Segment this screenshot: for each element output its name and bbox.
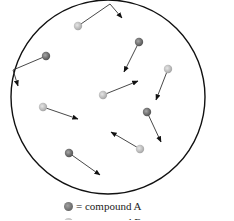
- trajectory-arrow-icon: [156, 69, 168, 100]
- compound-b-symbol-icon: [64, 218, 73, 221]
- compound-b-particle: [99, 91, 107, 99]
- compound-a-particle: [42, 52, 50, 60]
- compound-b-particle: [74, 22, 82, 30]
- legend-item-compound-a: = compound A: [64, 200, 141, 212]
- trajectory-arrow-icon: [103, 81, 138, 95]
- compound-a-particle: [65, 149, 73, 157]
- trajectory-arrow-icon: [43, 107, 78, 119]
- compound-a-particle: [143, 108, 151, 116]
- trajectory-arrows: [13, 4, 168, 175]
- legend-item-compound-b: = compound B: [64, 216, 141, 220]
- trajectory-arrow-icon: [111, 132, 140, 149]
- trajectory-arrow-icon: [124, 42, 139, 72]
- trajectory-arrow-icon: [147, 112, 161, 142]
- compound-b-particle: [136, 145, 144, 153]
- particles: [39, 22, 172, 157]
- compound-a-symbol-icon: [64, 202, 73, 211]
- compound-b-particle: [39, 103, 47, 111]
- trajectory-arrow-icon: [78, 4, 122, 26]
- compound-a-particle: [135, 38, 143, 46]
- compound-b-particle: [164, 65, 172, 73]
- legend-label-compound-b: = compound B: [76, 216, 141, 220]
- trajectory-arrow-icon: [69, 153, 100, 175]
- particle-diagram: [0, 0, 234, 220]
- container-circle: [11, 0, 205, 194]
- legend-label-compound-a: = compound A: [76, 200, 141, 212]
